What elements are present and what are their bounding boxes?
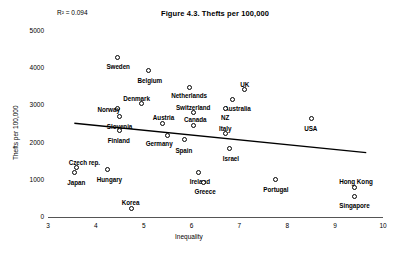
data-point-label: Norway (97, 106, 119, 113)
data-point[interactable] (187, 85, 192, 90)
data-point-label: Canada (184, 116, 206, 123)
data-point-label: Portugal (263, 186, 288, 193)
data-point-label: Greece (195, 188, 216, 195)
data-point-label: Israel (223, 155, 239, 162)
data-point-label: Netherlands (171, 92, 207, 99)
data-point[interactable] (115, 55, 120, 60)
data-point-label: Czech rep. (69, 159, 100, 166)
data-point[interactable] (352, 194, 357, 199)
trendline (0, 0, 399, 254)
data-point-label: Japan (67, 179, 85, 186)
data-point-label: USA (304, 125, 317, 132)
data-point[interactable] (182, 137, 187, 142)
data-point-label: Korea (122, 199, 140, 206)
data-point-label: Spain (175, 147, 192, 154)
data-point[interactable] (230, 97, 235, 102)
data-point[interactable] (201, 180, 206, 185)
data-point-label: Finland (108, 137, 130, 144)
data-point-label: Switzerland (176, 104, 210, 111)
data-point[interactable] (352, 185, 357, 190)
data-point-label: NZ (221, 114, 229, 121)
data-point-label: Belgium (138, 77, 163, 84)
data-point[interactable] (309, 116, 314, 121)
data-point-label: Germany (146, 140, 173, 147)
data-point-label: UK (240, 81, 249, 88)
data-point[interactable] (223, 106, 228, 111)
data-point-label: Singapore (339, 202, 369, 209)
data-point-label: Hungary (97, 176, 122, 183)
data-point-label: Denmark (123, 95, 150, 102)
data-point-label: Austria (153, 114, 174, 121)
data-point-label: Ireland (190, 178, 210, 185)
data-point-label: Hong Kong (339, 178, 372, 185)
data-point-label: Italy (219, 125, 231, 132)
data-point-label: Sweden (106, 63, 130, 70)
data-point[interactable] (242, 87, 247, 92)
scatter-chart: R² = 0.094 Figure 4.3. Thefts per 100,00… (0, 0, 399, 254)
data-point-label: Australia (224, 105, 251, 112)
